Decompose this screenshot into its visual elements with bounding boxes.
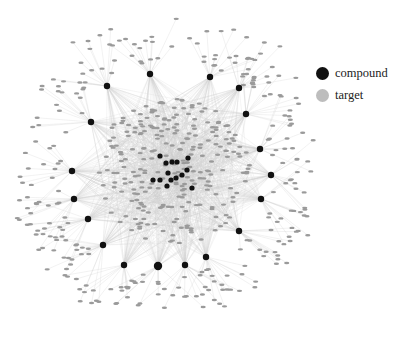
target-dot-icon — [316, 89, 329, 102]
legend-item-compound: compound — [316, 62, 388, 84]
legend-item-target: target — [316, 84, 388, 106]
legend: compound target — [316, 62, 388, 106]
compound-dot-icon — [316, 67, 329, 80]
legend-label-target: target — [335, 88, 363, 103]
legend-label-compound: compound — [335, 66, 388, 81]
compound-target-network — [0, 0, 404, 342]
